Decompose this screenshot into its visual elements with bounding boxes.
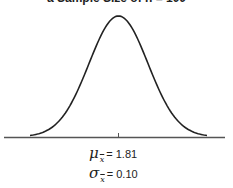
mean-value: = 1.81 <box>106 148 137 160</box>
mean-label: μx= 1.81 <box>89 144 137 162</box>
xbar-subscript: x <box>100 175 105 184</box>
std-error-label: σx= 0.10 <box>89 164 138 182</box>
std-error-value: = 0.10 <box>107 168 138 180</box>
sigma-symbol: σ <box>89 164 99 182</box>
density-curve <box>30 16 207 136</box>
xbar-subscript: x <box>100 155 105 164</box>
mu-symbol: μ <box>89 144 99 162</box>
